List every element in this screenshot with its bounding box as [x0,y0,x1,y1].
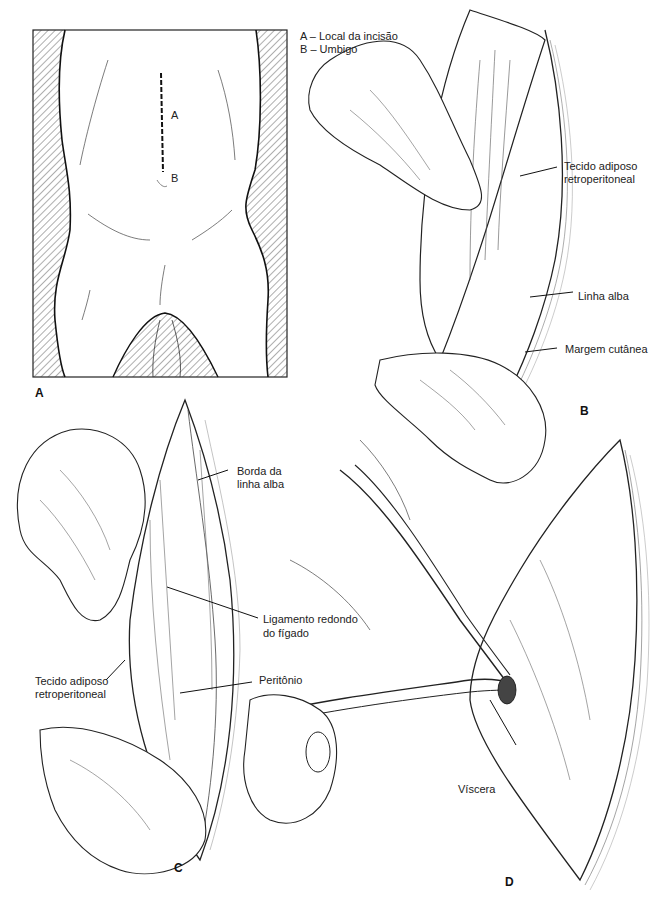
marker-a: A [171,109,178,122]
label-b-tecido-1: Tecido adiposo [564,160,637,173]
panel-d-drawing [244,440,649,890]
label-peritonio: Peritônio [259,674,302,687]
label-viscera: Víscera [458,783,495,796]
label-linha-alba: Linha alba [578,290,629,303]
label-c-tecido-2: retroperitoneal [35,688,106,701]
surgical-illustration [0,0,669,920]
label-margem-cutanea: Margem cutânea [565,343,648,356]
panel-a-drawing [33,30,287,377]
panel-label-c: C [174,861,183,875]
label-b-tecido-2: retroperitoneal [564,173,635,186]
label-ligamento-1: Ligamento redondo [263,613,358,626]
panel-b-drawing [309,10,573,483]
panel-label-b: B [580,404,589,418]
marker-b: B [171,172,178,185]
label-c-tecido-1: Tecido adiposo [35,675,108,688]
label-ligamento-2: do fígado [263,627,309,640]
panel-label-d: D [505,875,514,889]
panel-label-a: A [35,386,44,400]
panel-c-drawing [17,400,258,874]
label-borda-2: linha alba [237,478,284,491]
label-borda-1: Borda da [237,465,282,478]
legend-incision-site: A – Local da incisão [300,30,398,43]
legend-umbilicus: B – Umbigo [300,43,357,56]
